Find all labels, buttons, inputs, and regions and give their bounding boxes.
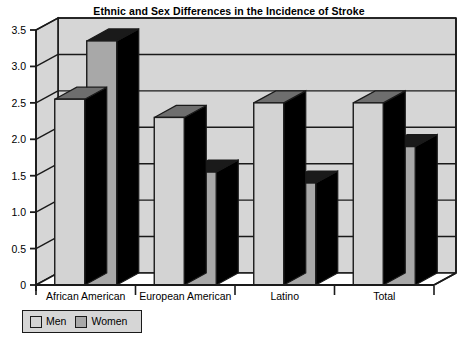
bar-side-face	[415, 135, 437, 285]
stroke-incidence-bar-chart: Ethnic and Sex Differences in the Incide…	[0, 0, 458, 344]
y-axis-tick-label: 0	[0, 280, 26, 290]
bar-side-face	[316, 171, 338, 285]
bar-side-face	[383, 91, 405, 285]
legend-swatch-women-icon	[75, 316, 87, 328]
y-axis-tick-label: 1.0	[0, 207, 26, 217]
bar-men-0	[55, 87, 107, 285]
chart-legend: Men Women	[22, 310, 142, 333]
legend-label-men: Men	[46, 316, 66, 327]
y-axis-tick-label: 3.5	[0, 25, 26, 35]
y-axis-tick-label: 0.5	[0, 244, 26, 254]
x-axis-category-label: African American	[36, 291, 136, 302]
bar-side-face	[184, 105, 206, 285]
legend-entry-women: Women	[75, 316, 127, 328]
legend-entry-men: Men	[30, 316, 66, 328]
bar-side-face	[284, 91, 306, 285]
x-axis-category-label: European American	[136, 291, 236, 302]
y-axis-tick-label: 2.0	[0, 134, 26, 144]
legend-swatch-men-icon	[30, 316, 42, 328]
y-axis-tick-label: 1.5	[0, 171, 26, 181]
bar-side-face	[117, 29, 139, 285]
bar-front-face	[55, 99, 85, 285]
bar-men-1	[154, 105, 206, 285]
bar-front-face	[254, 103, 284, 285]
y-axis-tick-label: 2.5	[0, 98, 26, 108]
y-axis-tick-label: 3.0	[0, 61, 26, 71]
bar-men-2	[254, 91, 306, 285]
bar-men-3	[353, 91, 405, 285]
x-axis-category-label: Total	[335, 291, 435, 302]
bar-front-face	[154, 117, 184, 285]
bar-front-face	[353, 103, 383, 285]
bar-side-face	[216, 160, 238, 285]
bar-side-face	[85, 87, 107, 285]
x-axis-category-label: Latino	[235, 291, 335, 302]
legend-label-women: Women	[91, 316, 127, 327]
